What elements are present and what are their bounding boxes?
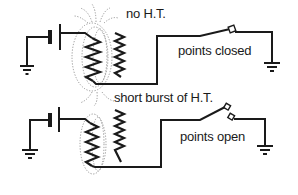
coil-label-top: no H.T. xyxy=(126,6,166,21)
primary-feed-wire xyxy=(60,33,92,38)
ground-right-icon xyxy=(264,63,280,71)
ground-left-icon xyxy=(22,120,50,158)
switch-label-top: points closed xyxy=(178,43,251,58)
contact-point-upper-icon xyxy=(224,103,231,110)
battery-icon xyxy=(50,107,59,132)
switch-label-bottom: points open xyxy=(180,129,245,144)
panel-points-open: short burst of H.T. points open xyxy=(22,90,273,174)
secondary-coil-icon xyxy=(115,110,124,162)
ignition-diagram: no H.T. points closed xyxy=(0,0,298,195)
ground-left-icon xyxy=(20,37,50,74)
coil-label-bottom: short burst of H.T. xyxy=(114,90,213,105)
contact-points-closed-icon xyxy=(228,25,236,33)
primary-coil-icon xyxy=(86,38,100,81)
battery-icon xyxy=(50,24,60,50)
contact-point-lower-icon xyxy=(228,113,235,120)
secondary-coil-icon xyxy=(115,33,124,77)
primary-feed-wire xyxy=(59,119,90,123)
magnetic-field-lines xyxy=(72,4,118,106)
primary-coil-icon xyxy=(86,123,98,166)
ground-right-icon xyxy=(257,146,273,154)
